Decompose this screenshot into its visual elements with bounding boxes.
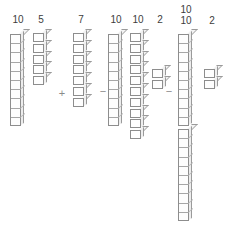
column-label-stack-seven: 7 xyxy=(71,14,91,25)
rod-unit-divider xyxy=(109,52,118,53)
column-label-stack-two-b: 2 xyxy=(202,15,222,26)
rod-unit-divider xyxy=(11,108,20,109)
unit-cube xyxy=(130,41,141,50)
unit-cube xyxy=(130,106,141,115)
rod-unit-divider xyxy=(11,43,20,44)
column-label-stack-two-a: 2 xyxy=(150,14,170,25)
rod-unit-divider xyxy=(179,108,188,109)
unit-cube xyxy=(204,77,215,86)
rod-unit-divider xyxy=(109,43,118,44)
unit-cube xyxy=(152,77,163,86)
unit-cube xyxy=(204,66,215,75)
rod-unit-divider xyxy=(109,89,118,90)
unit-cube xyxy=(130,95,141,104)
rod-unit-divider xyxy=(179,193,188,194)
cube-front-face xyxy=(152,80,163,89)
unit-cube xyxy=(33,30,44,39)
cube-front-face xyxy=(204,80,215,89)
column-label-rod-ten-d: 10 xyxy=(176,15,196,26)
rod-unit-divider xyxy=(179,184,188,185)
rod-unit-divider xyxy=(179,98,188,99)
rod-unit-divider xyxy=(109,80,118,81)
column-label-rod-ten-c: 10 xyxy=(176,4,196,15)
rod-unit-divider xyxy=(179,62,188,63)
unit-cube xyxy=(73,62,84,71)
rod-unit-divider xyxy=(11,52,20,53)
unit-cube xyxy=(73,30,84,39)
rod-unit-divider xyxy=(11,98,20,99)
unit-cube xyxy=(130,73,141,82)
unit-cube xyxy=(130,30,141,39)
unit-cube xyxy=(152,66,163,75)
rod-unit-divider xyxy=(109,62,118,63)
cube-front-face xyxy=(73,98,84,107)
minus-operator: − xyxy=(97,86,109,97)
rod-unit-divider xyxy=(11,89,20,90)
rod-unit-divider xyxy=(179,166,188,167)
column-label-rod-ten-b: 10 xyxy=(106,14,126,25)
rod-unit-divider xyxy=(179,80,188,81)
rod-unit-divider xyxy=(179,212,188,213)
rod-unit-divider xyxy=(11,117,20,118)
rod-unit-divider xyxy=(179,43,188,44)
unit-cube xyxy=(130,52,141,61)
rod-unit-divider xyxy=(109,117,118,118)
unit-cube xyxy=(130,84,141,93)
rod-unit-divider xyxy=(109,71,118,72)
unit-cube xyxy=(73,41,84,50)
rod-unit-divider xyxy=(11,80,20,81)
rod-unit-divider xyxy=(11,62,20,63)
unit-cube xyxy=(33,73,44,82)
column-label-stack-five: 5 xyxy=(31,14,51,25)
unit-cube xyxy=(33,41,44,50)
column-label-rod-ten-a: 10 xyxy=(8,14,28,25)
rod-unit-divider xyxy=(179,175,188,176)
unit-cube xyxy=(130,62,141,71)
rod-unit-divider xyxy=(109,98,118,99)
minus-operator: − xyxy=(163,86,175,97)
rod-unit-divider xyxy=(179,147,188,148)
unit-cube xyxy=(130,116,141,125)
unit-cube xyxy=(33,52,44,61)
rod-unit-divider xyxy=(179,157,188,158)
column-label-stack-ten: 10 xyxy=(128,14,148,25)
unit-cube xyxy=(73,84,84,93)
unit-cube xyxy=(130,127,141,136)
plus-operator: + xyxy=(56,88,68,99)
rod-unit-divider xyxy=(179,203,188,204)
cube-front-face xyxy=(33,76,44,85)
rod-unit-divider xyxy=(179,138,188,139)
rod-unit-divider xyxy=(179,89,188,90)
rod-unit-divider xyxy=(179,71,188,72)
rod-unit-divider xyxy=(11,71,20,72)
unit-cube xyxy=(73,52,84,61)
rod-unit-divider xyxy=(179,117,188,118)
cube-front-face xyxy=(130,130,141,139)
rod-unit-divider xyxy=(109,108,118,109)
rod-unit-divider xyxy=(179,52,188,53)
diagram-canvas: 10571010210102+−− xyxy=(0,0,228,242)
unit-cube xyxy=(73,73,84,82)
unit-cube xyxy=(73,95,84,104)
unit-cube xyxy=(33,62,44,71)
